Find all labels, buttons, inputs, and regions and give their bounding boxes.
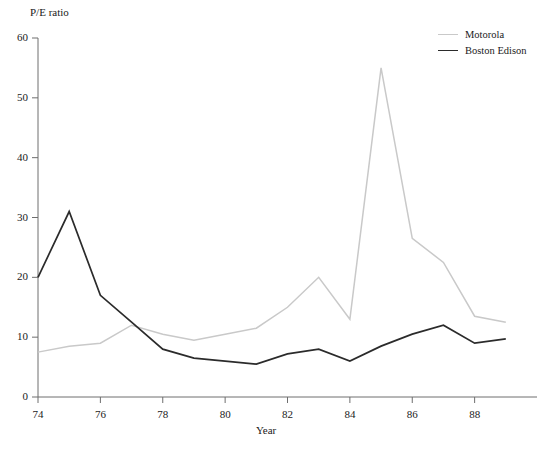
figure-caption — [0, 451, 546, 460]
y-axis-ticks — [32, 38, 38, 397]
y-tick-label: 60 — [4, 31, 28, 43]
x-tick-label: 86 — [399, 408, 425, 420]
legend-swatch-icon — [438, 34, 458, 35]
y-tick-label: 0 — [4, 390, 28, 402]
x-tick-label: 78 — [150, 408, 176, 420]
legend-swatch-icon — [438, 50, 458, 51]
x-tick-label: 88 — [462, 408, 488, 420]
y-tick-label: 50 — [4, 91, 28, 103]
legend-item-boston-edison[interactable]: Boston Edison — [438, 44, 527, 57]
series-line-motorola — [38, 68, 506, 352]
y-tick-label: 20 — [4, 270, 28, 282]
chart-figure: P/E ratio Year 0102030405060 74767880828… — [0, 0, 546, 460]
data-series-group — [38, 68, 506, 364]
axes — [32, 38, 537, 403]
y-tick-label: 30 — [4, 211, 28, 223]
chart-legend: MotorolaBoston Edison — [438, 28, 527, 57]
x-axis-ticks — [38, 397, 475, 403]
y-tick-label: 10 — [4, 330, 28, 342]
legend-label: Motorola — [465, 29, 504, 40]
x-tick-label: 76 — [87, 408, 113, 420]
y-tick-label: 40 — [4, 151, 28, 163]
plot-area — [0, 0, 546, 460]
legend-item-motorola[interactable]: Motorola — [438, 28, 527, 41]
legend-label: Boston Edison — [465, 45, 527, 56]
x-tick-label: 84 — [337, 408, 363, 420]
x-tick-label: 80 — [212, 408, 238, 420]
series-line-boston-edison — [38, 212, 506, 365]
x-tick-label: 82 — [275, 408, 301, 420]
x-tick-label: 74 — [25, 408, 51, 420]
